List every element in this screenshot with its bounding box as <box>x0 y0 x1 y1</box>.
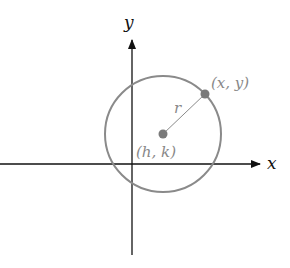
x-axis-label: x <box>267 153 277 173</box>
point-label: (x, y) <box>211 74 249 92</box>
radius-label: r <box>174 99 182 117</box>
y-axis-label: y <box>123 12 134 32</box>
center-point <box>159 130 168 139</box>
circumference-point <box>201 90 210 99</box>
center-label: (h, k) <box>136 143 176 161</box>
radius-line <box>163 94 205 134</box>
circle-diagram: y x (x, y) r (h, k) <box>0 0 290 268</box>
